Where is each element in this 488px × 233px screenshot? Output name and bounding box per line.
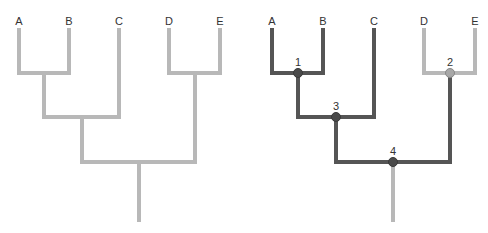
node-label-4: 4 [390, 145, 396, 157]
taxon-label-c: C [370, 15, 378, 27]
taxon-label-b: B [65, 15, 72, 27]
taxon-label-d: D [420, 15, 428, 27]
node-4 [389, 158, 398, 167]
left-taxa-labels: A B C D E [15, 15, 223, 27]
right-taxa-labels: A B C D E [268, 15, 478, 27]
taxon-label-d: D [165, 15, 173, 27]
taxon-label-a: A [268, 15, 276, 27]
taxon-label-b: B [319, 15, 326, 27]
taxon-label-c: C [115, 15, 123, 27]
taxon-label-e: E [216, 15, 223, 27]
branch-ab [19, 30, 69, 73]
left-cladogram [19, 30, 220, 220]
node-label-2: 2 [447, 56, 453, 68]
node-label-1: 1 [295, 56, 301, 68]
node-1 [294, 69, 303, 78]
node-3 [332, 113, 341, 122]
taxon-label-a: A [15, 15, 23, 27]
branch-de [169, 30, 220, 73]
right-cladogram [272, 30, 475, 220]
cladogram-figure: A B C D E 1 2 3 4 A B C D E [0, 0, 488, 233]
node-2 [446, 69, 455, 78]
taxon-label-e: E [471, 15, 478, 27]
node-label-3: 3 [333, 100, 339, 112]
